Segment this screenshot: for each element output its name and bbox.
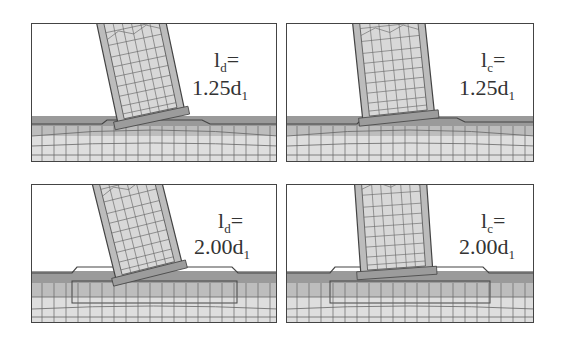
panel-top-right: lc= 1.25d1 xyxy=(286,23,534,162)
panel-bottom-right: lc= 2.00d1 xyxy=(286,184,534,323)
label-sub: c xyxy=(487,60,493,75)
value-sub: 1 xyxy=(242,88,249,103)
label-eq: = xyxy=(493,47,505,72)
label-eq: = xyxy=(231,208,243,233)
value-text: 2.00d xyxy=(194,234,244,259)
panel-top-left: ld= 1.25d1 xyxy=(31,23,277,162)
parameter-value: 2.00d1 xyxy=(459,235,515,262)
parameter-label: ld= xyxy=(214,48,239,75)
panel-bottom-left: ld= 2.00d1 xyxy=(31,184,277,323)
value-text: 1.25d xyxy=(192,75,242,100)
value-sub: 1 xyxy=(509,247,516,262)
label-eq: = xyxy=(493,208,505,233)
value-sub: 1 xyxy=(244,247,251,262)
parameter-value: 1.25d1 xyxy=(459,76,515,103)
label-eq: = xyxy=(227,47,239,72)
parameter-value: 2.00d1 xyxy=(194,235,250,262)
value-sub: 1 xyxy=(509,88,516,103)
value-text: 2.00d xyxy=(459,234,509,259)
parameter-label: lc= xyxy=(481,209,505,236)
parameter-label: ld= xyxy=(218,209,243,236)
parameter-label: lc= xyxy=(481,48,505,75)
label-sub: d xyxy=(220,60,227,75)
value-text: 1.25d xyxy=(459,75,509,100)
parameter-value: 1.25d1 xyxy=(192,76,248,103)
